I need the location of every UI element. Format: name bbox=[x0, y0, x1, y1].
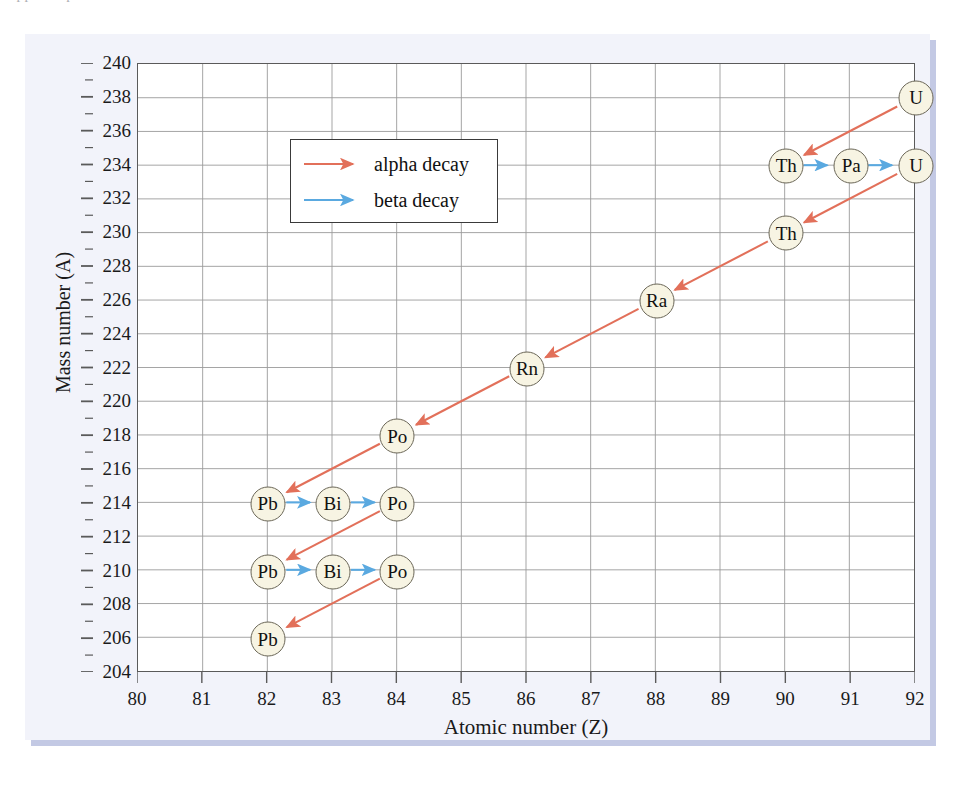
x-tick-label: 84 bbox=[387, 688, 406, 710]
x-tick-label: 83 bbox=[322, 688, 341, 710]
nuclide-label: Po bbox=[387, 425, 407, 447]
nuclide-label: Ra bbox=[646, 290, 667, 312]
y-tick-label: 234 bbox=[103, 154, 132, 176]
nuclide-node: Pa bbox=[834, 148, 869, 183]
y-tick-label: 224 bbox=[103, 323, 132, 345]
nuclide-label: Rn bbox=[516, 358, 538, 380]
x-tick-label: 92 bbox=[906, 688, 925, 710]
x-axis-title: Atomic number (Z) bbox=[137, 715, 915, 740]
x-tick-label: 87 bbox=[581, 688, 600, 710]
y-tick-label: 222 bbox=[103, 357, 132, 379]
x-tick-label: 91 bbox=[841, 688, 860, 710]
x-tick-label: 80 bbox=[128, 688, 147, 710]
nuclide-node: Th bbox=[769, 148, 804, 183]
nuclide-node: Bi bbox=[315, 554, 350, 589]
nuclide-node: Pb bbox=[250, 554, 285, 589]
x-tick-marks bbox=[137, 672, 915, 683]
nuclide-label: Pb bbox=[258, 628, 278, 650]
nuclide-node: U bbox=[899, 80, 934, 115]
legend-item-alpha: alpha decay bbox=[303, 147, 469, 181]
y-tick-label: 230 bbox=[103, 221, 132, 243]
legend-label-alpha: alpha decay bbox=[374, 153, 469, 176]
x-tick-label: 86 bbox=[517, 688, 536, 710]
nuclide-node: Bi bbox=[315, 486, 350, 521]
x-tick-label: 88 bbox=[646, 688, 665, 710]
nuclide-node: Po bbox=[380, 486, 415, 521]
nuclide-node: Ra bbox=[639, 283, 674, 318]
y-axis-title: Mass number (A) bbox=[52, 173, 75, 473]
y-tick-label: 226 bbox=[103, 289, 132, 311]
nuclide-label: U bbox=[909, 87, 923, 109]
y-tick-label: 206 bbox=[103, 627, 132, 649]
nuclide-label: U bbox=[909, 155, 923, 177]
y-tick-label: 216 bbox=[103, 458, 132, 480]
y-tick-label: 240 bbox=[103, 52, 132, 74]
nuclide-node: Pb bbox=[250, 486, 285, 521]
y-tick-label: 232 bbox=[103, 187, 132, 209]
figure-panel: 2402382362342322302282262242222202182162… bbox=[25, 34, 930, 740]
nuclide-label: Bi bbox=[324, 561, 342, 583]
y-tick-marks bbox=[81, 63, 93, 672]
nuclide-label: Pb bbox=[258, 493, 278, 515]
nuclide-label: Th bbox=[776, 222, 797, 244]
y-tick-label: 210 bbox=[103, 560, 132, 582]
legend-label-beta: beta decay bbox=[374, 189, 459, 212]
y-tick-label: 212 bbox=[103, 526, 132, 548]
nuclide-node: Rn bbox=[510, 351, 545, 386]
scan-clipped-top-text: clipped caption line bbox=[0, 0, 966, 10]
alpha-arrow-icon bbox=[303, 157, 365, 171]
y-tick-label: 218 bbox=[103, 424, 132, 446]
legend: alpha decay beta decay bbox=[290, 139, 498, 223]
x-tick-label: 90 bbox=[776, 688, 795, 710]
y-tick-label: 238 bbox=[103, 86, 132, 108]
x-tick-label: 85 bbox=[452, 688, 471, 710]
figure-inner: 2402382362342322302282262242222202182162… bbox=[25, 34, 930, 740]
x-tick-label: 82 bbox=[257, 688, 276, 710]
y-tick-label: 204 bbox=[103, 661, 132, 683]
nuclide-node: Po bbox=[380, 419, 415, 454]
y-tick-label: 228 bbox=[103, 255, 132, 277]
nuclide-label: Pa bbox=[842, 155, 861, 177]
x-tick-label: 81 bbox=[192, 688, 211, 710]
plot-area: alpha decay beta decay UThPaUThRaRnPoPbB… bbox=[137, 63, 915, 672]
nuclide-node: Pb bbox=[250, 622, 285, 657]
y-tick-label: 220 bbox=[103, 390, 132, 412]
y-tick-label: 208 bbox=[103, 593, 132, 615]
nuclide-node: U bbox=[899, 148, 934, 183]
beta-arrow-icon bbox=[303, 193, 365, 207]
nuclide-label: Th bbox=[776, 155, 797, 177]
y-tick-label: 214 bbox=[103, 492, 132, 514]
nuclide-label: Po bbox=[387, 561, 407, 583]
nuclide-label: Pb bbox=[258, 561, 278, 583]
nuclide-label: Bi bbox=[324, 493, 342, 515]
y-tick-label: 236 bbox=[103, 120, 132, 142]
nuclide-node: Th bbox=[769, 216, 804, 251]
nuclide-node: Po bbox=[380, 554, 415, 589]
legend-item-beta: beta decay bbox=[303, 183, 459, 217]
nuclide-label: Po bbox=[387, 493, 407, 515]
x-tick-label: 89 bbox=[711, 688, 730, 710]
